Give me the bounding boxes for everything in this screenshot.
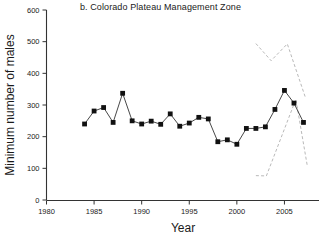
data-point-marker [273,107,278,112]
data-point-marker [244,126,249,131]
data-point-marker [168,111,173,116]
data-series-markers [82,88,306,147]
y-axis: 0100200300400500600 Minimum number of ma… [3,6,47,205]
x-tick-marks [47,201,285,205]
data-point-marker [177,124,182,129]
y-tick-label: 300 [27,101,40,110]
data-point-marker [101,105,106,110]
data-point-marker [139,122,144,127]
x-axis: 198019851990199520002005 Year [38,201,319,236]
data-point-marker [206,117,211,122]
data-point-marker [149,119,154,124]
y-tick-label: 200 [27,132,40,141]
data-series-line [85,90,304,144]
data-point-marker [282,88,287,93]
x-tick-label: 2005 [276,207,293,216]
series-polyline [85,90,304,144]
data-point-marker [253,126,258,131]
data-point-marker [301,120,306,125]
x-axis-label: Year [171,221,195,235]
plot-area: 0100200300400500600 Minimum number of ma… [0,0,321,235]
data-point-marker [92,109,97,114]
x-tick-label: 1990 [133,207,150,216]
data-point-marker [196,115,201,120]
y-axis-label: Minimum number of males [3,34,17,175]
y-tick-label: 0 [35,196,39,205]
data-point-marker [225,137,230,142]
data-point-marker [187,121,192,126]
data-point-marker [120,91,125,96]
data-point-marker [130,118,135,123]
x-tick-label: 1995 [181,207,198,216]
data-point-marker [263,124,268,129]
x-tick-label: 2000 [229,207,246,216]
y-tick-marks [43,10,47,200]
x-tick-label: 1980 [38,207,55,216]
lower-confidence-band [256,99,307,176]
data-point-marker [292,101,297,106]
data-point-marker [111,120,116,125]
data-point-marker [82,122,87,127]
y-tick-labels: 0100200300400500600 [27,6,40,205]
y-tick-label: 500 [27,37,40,46]
x-tick-labels: 198019851990199520002005 [38,207,293,216]
y-tick-label: 100 [27,164,40,173]
lower-confidence-line [256,99,307,176]
data-point-marker [158,122,163,127]
data-point-marker [215,139,220,144]
x-tick-label: 1985 [86,207,103,216]
upper-confidence-line [256,44,306,98]
y-tick-label: 600 [27,6,40,15]
data-point-marker [234,142,239,147]
chart-figure: b. Colorado Plateau Management Zone 0100… [0,0,321,235]
y-tick-label: 400 [27,69,40,78]
upper-confidence-band [256,44,306,98]
